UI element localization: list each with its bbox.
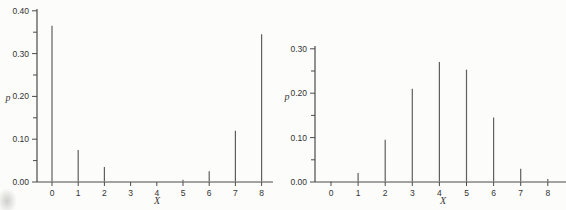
y-tick-label: 0.20 [12, 91, 29, 101]
y-tick-label: 0.30 [290, 44, 307, 54]
x-tick-label: 2 [102, 188, 107, 198]
x-tick-label: 5 [464, 188, 469, 198]
figure-canvas: 0.000.100.200.300.40012345678 0.000.100.… [0, 0, 566, 210]
x-tick-label: 6 [207, 188, 212, 198]
x-tick-label: 8 [545, 188, 550, 198]
y-tick-label: 0.30 [12, 49, 29, 59]
y-tick-label: 0.20 [290, 88, 307, 98]
x-tick-label: 8 [259, 188, 264, 198]
right-y-axis-label: p [285, 92, 290, 102]
right-chart: 0.000.100.200.30012345678 [290, 44, 566, 198]
x-tick-label: 2 [383, 188, 388, 198]
y-tick-label: 0.40 [12, 6, 29, 16]
x-tick-label: 3 [410, 188, 415, 198]
stem-plots-svg: 0.000.100.200.300.40012345678 0.000.100.… [0, 0, 566, 210]
x-tick-label: 1 [356, 188, 361, 198]
y-tick-label: 0.10 [290, 133, 307, 143]
y-tick-label: 0.00 [12, 177, 29, 187]
right-x-axis-label: X [440, 196, 446, 206]
x-tick-label: 7 [233, 188, 238, 198]
x-tick-label: 1 [76, 188, 81, 198]
x-tick-label: 7 [518, 188, 523, 198]
y-tick-label: 0.00 [290, 177, 307, 187]
x-tick-label: 5 [181, 188, 186, 198]
x-tick-label: 6 [491, 188, 496, 198]
y-tick-label: 0.10 [12, 134, 29, 144]
x-tick-label: 0 [50, 188, 55, 198]
left-x-axis-label: X [154, 196, 160, 206]
left-chart: 0.000.100.200.300.40012345678 [12, 6, 273, 198]
left-y-axis-label: p [6, 93, 11, 103]
x-tick-label: 3 [128, 188, 133, 198]
x-tick-label: 0 [329, 188, 334, 198]
